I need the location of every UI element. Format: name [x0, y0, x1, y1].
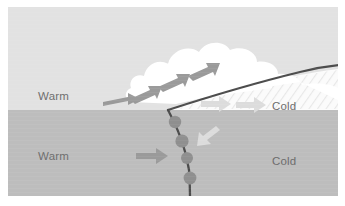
cold-front-diagram: Warm Warm Cold Cold	[0, 0, 345, 206]
diagram-canvas: Warm Warm Cold Cold	[0, 0, 345, 206]
paper-texture-overlay	[8, 7, 338, 196]
